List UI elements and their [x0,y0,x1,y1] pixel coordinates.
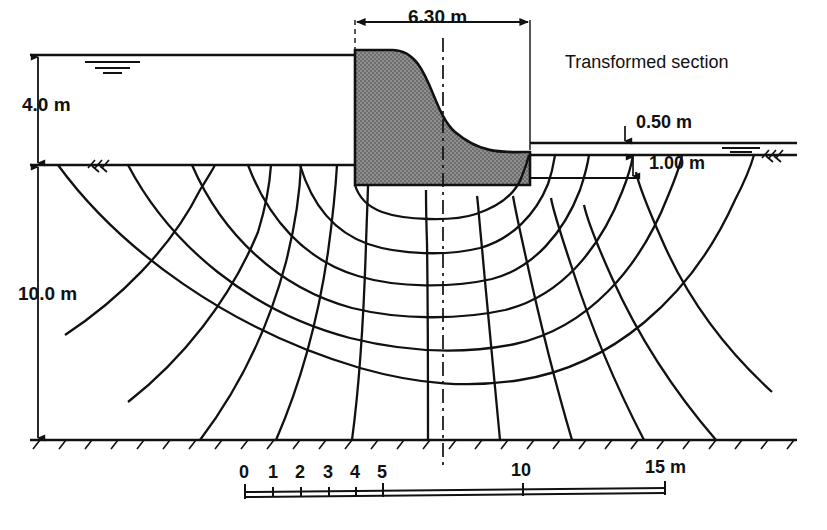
upstream-water-level-symbol [85,62,140,73]
scale-tick-label-10: 10 [511,460,531,481]
scale-tick-label-2: 2 [295,462,305,483]
label-dam-embedment: 1.00 m [649,153,705,174]
seepage-flow-net-figure: 4.0 m 10.0 m 6.30 m 0.50 m 1.00 m Transf… [0,0,827,530]
scale-unit-label: 15 m [645,457,686,478]
figure-canvas [0,0,827,530]
scale-bar [245,481,665,499]
label-downstream-water-depth: 0.50 m [636,112,692,133]
label-dam-base-width: 6.30 m [408,6,467,28]
scale-tick-label-3: 3 [323,462,333,483]
scale-tick-label-5: 5 [377,462,387,483]
scale-tick-label-0: 0 [239,462,249,483]
label-foundation-depth: 10.0 m [18,283,77,305]
scale-tick-label-4: 4 [350,462,360,483]
label-upstream-head: 4.0 m [22,94,71,116]
downstream-water-level-symbol [722,148,760,152]
scale-tick-label-1: 1 [268,462,278,483]
impervious-base-hatching [33,440,794,449]
label-transformed-section: Transformed section [565,52,728,73]
